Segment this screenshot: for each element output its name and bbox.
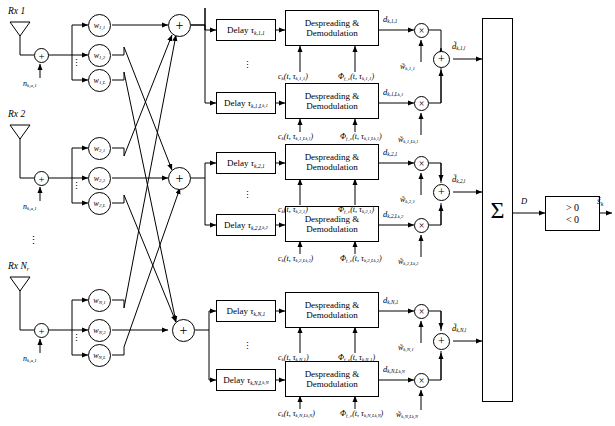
noise-label-1: nk,a,1: [23, 80, 37, 89]
multiplier-3-top: ×: [414, 304, 429, 319]
antenna-label-2: Rx 2: [8, 110, 25, 120]
despreading-block-3-bot: Despreading &Demodulation: [285, 361, 379, 397]
delay-block-2-bot: Delay τk,2,Lk,2: [216, 214, 276, 236]
branch-combiner-3: +: [433, 333, 450, 350]
noise-adder-3: +: [34, 323, 49, 338]
multiplier-2-top: ×: [414, 156, 429, 171]
d-label-3-bot: dk,N,Lk,N: [383, 365, 405, 375]
beam-summer-2: +: [168, 167, 191, 190]
phase-label-1-top: Φf_c(t, τk,1,1): [338, 73, 374, 82]
branch-output-label-2: d̃k,2,l: [452, 175, 465, 185]
phase-label-3-bot: Φf_c(t, τk,N,Lk,N): [340, 410, 383, 419]
d-label-1-top: dk,1,1: [383, 15, 398, 25]
weight-tilde-1-top: w̃k,1,1: [400, 63, 415, 72]
branch-3-vdots: ⋮: [243, 343, 252, 350]
weight-vdots-1: ⋮: [72, 60, 81, 67]
branch-2-vdots: ⋮: [243, 192, 252, 199]
despreading-block-1-bot: Despreading &Demodulation: [285, 83, 379, 119]
branch-combiner-2: +: [433, 184, 450, 201]
code-label-2-top: ck(t, τk,2,1): [278, 206, 308, 215]
weight-node-1-2: w1,2: [88, 44, 111, 67]
weight-node-1-L: w1,L: [88, 69, 111, 92]
weight-tilde-3-bot: w̃k,N,Lk,N: [396, 411, 418, 420]
phase-label-3-top: Φf_c(t, τk,N,1): [338, 354, 375, 363]
code-label-1-top: ck(t, τk,1,1): [278, 73, 308, 82]
code-label-3-bot: ck(t, τk,N,Lk,N): [278, 410, 315, 419]
code-label-1-bot: ck(t, τk,1,Lk,1): [278, 133, 313, 142]
beam-summer-3: +: [172, 319, 195, 342]
weight-node-3-2: wN,2: [88, 319, 111, 342]
weight-vdots-2: ⋮: [72, 183, 81, 190]
delay-block-1-bot: Delay τk,1,Lk,1: [216, 92, 276, 114]
d-label-2-bot: dk,2,Lk,2: [383, 210, 403, 220]
phase-label-2-bot: Φf_c(t, τk,2,Lk,2): [340, 255, 382, 264]
decision-block: > 0< 0: [545, 196, 600, 231]
phase-label-2-top: Φf_c(t, τk,2,1): [338, 206, 374, 215]
noise-adder-2: +: [34, 171, 49, 186]
multiplier-1-top: ×: [414, 23, 429, 38]
d-label-1-bot: dk,1,Lk,1: [383, 88, 403, 98]
decision-variable-label: D: [521, 197, 527, 206]
antenna-group-vdots: ⋮: [28, 236, 39, 244]
branch-output-label-1: d̃k,1,l: [452, 42, 465, 52]
noise-label-2: nk,a,1: [23, 203, 37, 212]
antenna-triangle: [10, 22, 30, 36]
branch-1-vdots: ⋮: [243, 62, 252, 69]
beam-summer-1: +: [168, 14, 191, 37]
antenna-triangle: [10, 277, 30, 291]
weight-tilde-2-top: w̃k,2,1: [400, 196, 415, 205]
weight-node-2-1: w2,1: [88, 137, 111, 160]
weight-node-3-1: wN,1: [88, 289, 111, 312]
delay-block-2-top: Delay τk,2,1: [216, 152, 276, 174]
code-label-3-top: ck(t, τk,N,1): [278, 354, 309, 363]
phase-label-1-bot: Φf_c(t, τk,1,Lk,1): [340, 133, 382, 142]
despreading-block-2-top: Despreading &Demodulation: [285, 144, 379, 180]
weight-node-3-L: wN,L: [88, 344, 111, 367]
noise-adder-1: +: [34, 48, 49, 63]
weight-node-2-2: w2,2: [88, 167, 111, 190]
code-label-2-bot: ck(t, τk,2,Lk,2): [278, 255, 313, 264]
noise-label-3: nk,a,1: [23, 355, 37, 364]
antenna-label-3: Rx Nr: [8, 262, 29, 273]
branch-combiner-1: +: [433, 51, 450, 68]
antenna-label-1: Rx 1: [8, 7, 25, 17]
branch-output-label-3: d̃k,N,l: [452, 324, 466, 334]
weight-node-2-L: w2,L: [88, 192, 111, 215]
weight-vdots-3: ⋮: [72, 335, 81, 342]
despreading-block-3-top: Despreading &Demodulation: [285, 292, 379, 328]
antenna-triangle: [10, 125, 30, 139]
block-diagram-canvas: Rx 1 Rx 2 Rx Nr + + + nk,a,1 nk,a,1 nk,a…: [0, 0, 615, 426]
delay-block-3-bot: Delay τk,N,Lk,N: [216, 369, 276, 391]
weight-tilde-3-top: w̃k,N,1: [398, 344, 414, 353]
d-label-2-top: dk,2,1: [383, 148, 398, 158]
multiplier-2-bot: ×: [414, 218, 429, 233]
delay-block-1-top: Delay τk,1,1: [216, 19, 276, 41]
despreading-block-1-top: Despreading &Demodulation: [285, 10, 379, 46]
weight-node-1-1: w1,1: [88, 14, 111, 37]
weight-tilde-1-bot: w̃k,1,Lk,1: [398, 136, 418, 145]
multiplier-1-bot: ×: [414, 96, 429, 111]
output-symbol-label: ŝk: [597, 197, 603, 208]
sigma-combiner-block: Σ: [482, 18, 513, 402]
multiplier-3-bot: ×: [414, 373, 429, 388]
delay-block-3-top: Delay τk,N,1: [216, 300, 276, 322]
d-label-3-top: dk,N,1: [383, 296, 398, 306]
weight-tilde-2-bot: w̃k,2,Lk,2: [398, 258, 418, 267]
